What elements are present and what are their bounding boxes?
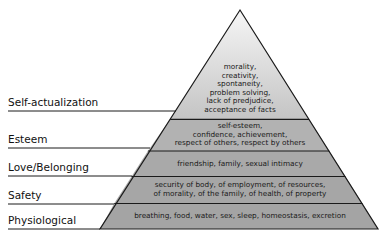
- text-line: respect of others, respect by others: [160, 139, 320, 148]
- level-label-safety: Safety: [8, 189, 42, 201]
- level-label-esteem: Esteem: [8, 133, 47, 145]
- band-text-self-actualization: morality, creativity, spontaneity, probl…: [190, 63, 290, 115]
- band-text-esteem: self-esteem, confidence, achievement, re…: [160, 122, 320, 148]
- text-line: breathing, food, water, sex, sleep, home…: [115, 212, 365, 221]
- text-line: acceptance of facts: [190, 106, 290, 115]
- text-line: of morality, of the family, of health, o…: [130, 190, 350, 199]
- text-line: friendship, family, sexual intimacy: [150, 160, 330, 169]
- band-text-love-belonging: friendship, family, sexual intimacy: [150, 160, 330, 169]
- level-label-self-actualization: Self-actualization: [8, 96, 98, 108]
- band-text-safety: security of body, of employment, of reso…: [130, 181, 350, 198]
- level-label-love-belonging: Love/Belonging: [8, 161, 89, 173]
- level-label-physiological: Physiological: [8, 214, 76, 226]
- pyramid-graphic: [0, 0, 385, 239]
- band-text-physiological: breathing, food, water, sex, sleep, home…: [115, 212, 365, 221]
